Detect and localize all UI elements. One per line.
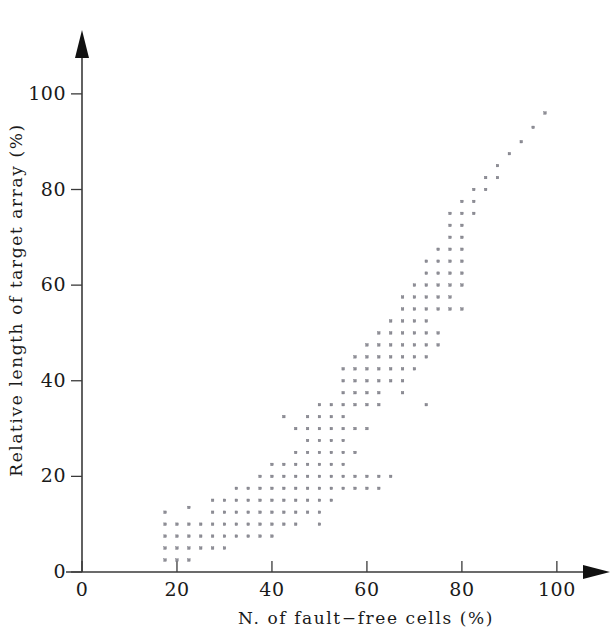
- data-point: [461, 308, 464, 311]
- data-point: [283, 487, 286, 490]
- data-point: [437, 248, 440, 251]
- data-point: [377, 403, 380, 406]
- data-point: [461, 224, 464, 227]
- data-point: [283, 511, 286, 514]
- data-point: [484, 188, 487, 191]
- data-point: [484, 176, 487, 179]
- data-point: [366, 344, 369, 347]
- data-point: [472, 188, 475, 191]
- data-point: [271, 523, 274, 526]
- data-point: [330, 487, 333, 490]
- data-point: [306, 463, 309, 466]
- data-point: [199, 547, 202, 550]
- data-point: [283, 523, 286, 526]
- data-point: [164, 559, 167, 562]
- data-point: [496, 164, 499, 167]
- data-point: [342, 379, 345, 382]
- data-point: [449, 212, 452, 215]
- data-point: [461, 272, 464, 275]
- data-point: [425, 308, 428, 311]
- data-point: [425, 332, 428, 335]
- data-point: [223, 511, 226, 514]
- scatter-plot-figure: 020406080100 020406080100 N. of fault−fr…: [0, 0, 614, 636]
- data-point: [223, 535, 226, 538]
- data-point: [259, 535, 262, 538]
- data-point: [235, 523, 238, 526]
- data-point: [366, 379, 369, 382]
- data-point: [318, 427, 321, 430]
- data-point: [377, 368, 380, 371]
- data-point: [461, 200, 464, 203]
- data-point: [342, 403, 345, 406]
- data-point: [354, 475, 357, 478]
- data-point: [449, 308, 452, 311]
- data-point: [188, 523, 191, 526]
- data-point: [366, 391, 369, 394]
- data-point: [401, 344, 404, 347]
- data-point: [330, 475, 333, 478]
- data-point: [520, 140, 523, 143]
- data-point: [401, 356, 404, 359]
- data-point: [342, 427, 345, 430]
- data-point: [306, 439, 309, 442]
- data-point: [294, 451, 297, 454]
- data-point: [283, 499, 286, 502]
- data-point: [389, 356, 392, 359]
- x-axis-group: [66, 565, 610, 579]
- data-point: [461, 260, 464, 263]
- data-point: [235, 499, 238, 502]
- data-point: [283, 475, 286, 478]
- data-point: [259, 499, 262, 502]
- data-point: [342, 463, 345, 466]
- data-point: [449, 272, 452, 275]
- y-tick-label: 20: [41, 464, 66, 486]
- y-axis-title: Relative length of target array (%): [6, 123, 26, 476]
- data-point: [330, 463, 333, 466]
- data-point: [306, 487, 309, 490]
- data-point: [413, 284, 416, 287]
- data-point: [223, 523, 226, 526]
- data-point: [318, 487, 321, 490]
- y-tick-label: 100: [28, 82, 66, 104]
- data-point: [366, 356, 369, 359]
- data-point: [318, 439, 321, 442]
- data-point: [330, 451, 333, 454]
- data-point: [247, 499, 250, 502]
- data-point: [377, 487, 380, 490]
- data-point: [235, 487, 238, 490]
- data-point: [176, 535, 179, 538]
- data-point: [461, 236, 464, 239]
- data-point: [306, 511, 309, 514]
- data-point: [472, 212, 475, 215]
- data-point: [449, 296, 452, 299]
- data-point: [199, 535, 202, 538]
- data-point: [342, 439, 345, 442]
- x-tick-label: 20: [164, 578, 189, 600]
- data-point: [425, 272, 428, 275]
- data-point: [413, 296, 416, 299]
- y-tick-label: 60: [41, 273, 66, 295]
- data-point: [413, 320, 416, 323]
- x-axis-title: N. of fault−free cells (%): [238, 608, 494, 628]
- data-point: [188, 559, 191, 562]
- data-point: [294, 523, 297, 526]
- data-point: [354, 391, 357, 394]
- data-point: [211, 511, 214, 514]
- data-point: [330, 415, 333, 418]
- data-point: [259, 475, 262, 478]
- data-point: [437, 296, 440, 299]
- data-point: [235, 535, 238, 538]
- data-point: [437, 332, 440, 335]
- data-point: [389, 379, 392, 382]
- data-point: [532, 126, 535, 129]
- data-point: [271, 499, 274, 502]
- data-point: [401, 296, 404, 299]
- data-point: [342, 368, 345, 371]
- data-point: [413, 368, 416, 371]
- y-tick-label: 40: [41, 369, 66, 391]
- data-point: [377, 379, 380, 382]
- x-tick-label: 40: [259, 578, 284, 600]
- data-point: [318, 523, 321, 526]
- data-point: [401, 308, 404, 311]
- data-point: [401, 379, 404, 382]
